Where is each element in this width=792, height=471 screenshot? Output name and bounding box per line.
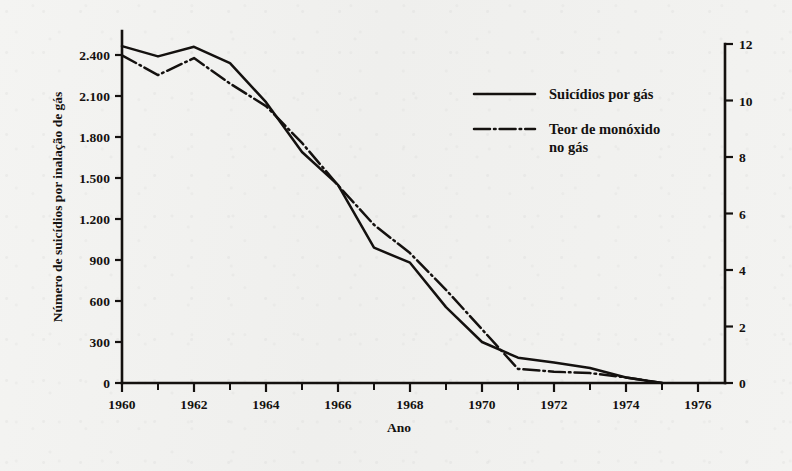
x-tick-label: 1964 (252, 397, 280, 412)
y-axis-right-ticks: 024681012 (725, 37, 753, 391)
legend-item-monoxido[interactable]: Teor de monóxido no gás (474, 121, 660, 155)
legend: Suicídios por gás Teor de monóxido no gá… (474, 86, 660, 155)
y-tick-label-right: 8 (739, 150, 746, 165)
x-tick-label: 1976 (684, 397, 712, 412)
chart-svg: 03006009001.2001.5001.8002.1002.400 0246… (0, 0, 792, 471)
x-tick-label: 1962 (180, 397, 208, 412)
x-axis-title: Ano (387, 420, 411, 435)
y-tick-label-right: 2 (739, 320, 746, 335)
y-axis-left-ticks: 03006009001.2001.5001.8002.1002.400 (79, 48, 122, 391)
y-tick-label-left: 900 (89, 253, 110, 268)
y-tick-label-right: 4 (739, 263, 746, 278)
x-tick-label: 1970 (468, 397, 496, 412)
legend-label-monoxido: Teor de monóxido (549, 121, 660, 137)
x-axis-ticks: 196019621964196619681970197219741976 (108, 383, 712, 412)
y-tick-label-left: 1.200 (79, 212, 110, 227)
y-tick-label-left: 1.800 (79, 130, 110, 145)
chart-figure: 03006009001.2001.5001.8002.1002.400 0246… (0, 0, 792, 471)
y-axis-title: Número de suicídios por inalação de gás (50, 92, 65, 323)
y-tick-label-left: 600 (89, 294, 110, 309)
legend-label-suicidios: Suicídios por gás (549, 86, 654, 102)
y-tick-label-right: 0 (739, 376, 746, 391)
y-tick-label-left: 0 (103, 376, 110, 391)
y-tick-label-left: 300 (89, 335, 110, 350)
y-tick-label-right: 6 (739, 207, 746, 222)
y-tick-label-left: 1.500 (79, 171, 110, 186)
legend-item-suicidios[interactable]: Suicídios por gás (474, 86, 654, 102)
x-tick-label: 1966 (324, 397, 352, 412)
y-tick-label-left: 2.400 (79, 48, 110, 63)
series-line-monoxido (122, 55, 662, 383)
x-tick-label: 1960 (108, 397, 136, 412)
x-tick-label: 1974 (612, 397, 640, 412)
y-tick-label-right: 10 (739, 94, 753, 109)
y-tick-label-left: 2.100 (79, 89, 110, 104)
x-tick-label: 1968 (396, 397, 424, 412)
legend-label-monoxido-line2: no gás (549, 139, 588, 155)
y-tick-label-right: 12 (739, 37, 753, 52)
x-tick-label: 1972 (540, 397, 568, 412)
